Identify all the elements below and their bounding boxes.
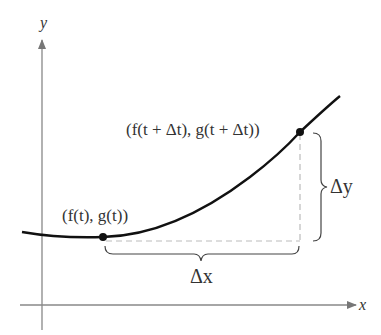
delta-x-label: Δx	[190, 265, 213, 287]
delta-y-label: Δy	[330, 175, 353, 198]
point-t	[99, 233, 107, 241]
point-t-plus-delta-label: (f(t + Δt), g(t + Δt))	[126, 120, 260, 139]
delta-y-brace	[313, 133, 327, 241]
point-t-label: (f(t), g(t))	[62, 206, 128, 225]
y-axis-label: y	[38, 14, 48, 32]
delta-x-brace	[105, 246, 299, 261]
parametric-derivative-diagram: y x Δx Δy (f(t), g(t)) (f(t + Δt), g(t +…	[0, 0, 381, 335]
x-axis-label: x	[358, 296, 366, 313]
point-t-plus-delta	[296, 128, 304, 136]
